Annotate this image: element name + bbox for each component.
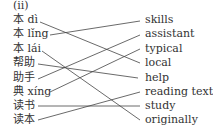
match-line [50, 21, 140, 35]
match-line [38, 64, 138, 78]
match-line [42, 51, 140, 120]
match-line [50, 49, 140, 92]
matching-lines [0, 0, 213, 132]
